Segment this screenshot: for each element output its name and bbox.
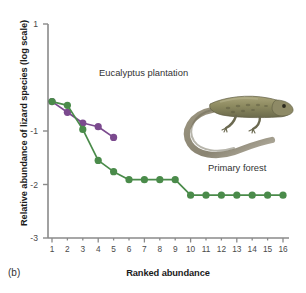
y-tick-label: 1 bbox=[12, 19, 38, 29]
data-point bbox=[95, 157, 102, 164]
x-tick-label: 16 bbox=[272, 244, 294, 254]
x-axis-title: Ranked abundance bbox=[52, 268, 284, 278]
data-point bbox=[233, 192, 240, 199]
data-point bbox=[202, 192, 209, 199]
data-point bbox=[79, 126, 86, 133]
figure-panel-b: Relative abundance of lizard species (lo… bbox=[0, 0, 306, 293]
series-eucalyptus-plantation bbox=[48, 98, 117, 141]
y-tick-label: -3 bbox=[12, 233, 38, 243]
series-label-eucalyptus: Eucalyptus plantation bbox=[99, 67, 188, 78]
data-point bbox=[64, 102, 71, 109]
series-label-primary-forest: Primary forest bbox=[208, 162, 266, 173]
data-point bbox=[172, 176, 179, 183]
data-point bbox=[264, 192, 271, 199]
data-point bbox=[156, 176, 163, 183]
data-point bbox=[187, 192, 194, 199]
data-point bbox=[95, 123, 102, 130]
data-point bbox=[48, 98, 55, 105]
y-tick-label: -1 bbox=[12, 126, 38, 136]
y-tick-label: -2 bbox=[12, 180, 38, 190]
data-point bbox=[110, 134, 117, 141]
y-axis-title: Relative abundance of lizard species (lo… bbox=[19, 9, 29, 237]
data-point bbox=[218, 192, 225, 199]
axis-lines bbox=[43, 24, 289, 243]
data-point bbox=[279, 192, 286, 199]
data-point bbox=[125, 176, 132, 183]
data-point bbox=[249, 192, 256, 199]
series-primary-forest bbox=[48, 98, 286, 199]
data-point bbox=[110, 168, 117, 175]
data-point bbox=[141, 176, 148, 183]
panel-label: (b) bbox=[8, 267, 20, 278]
